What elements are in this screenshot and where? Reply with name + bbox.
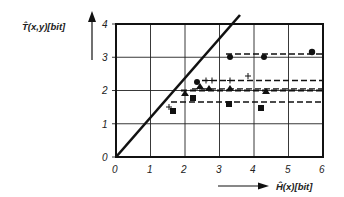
square-marker-icon xyxy=(190,95,196,101)
x-axis-arrow-icon xyxy=(218,183,269,190)
circle-marker-icon xyxy=(227,54,233,60)
x-tick-5: 5 xyxy=(285,164,291,175)
square-marker-icon xyxy=(258,105,264,111)
circle-marker-icon xyxy=(261,54,267,60)
dashed-levels xyxy=(171,54,323,102)
y-axis-arrow-icon xyxy=(88,11,96,60)
plus-marker-icon xyxy=(245,73,251,79)
diagonal-reference-line xyxy=(116,15,240,157)
y-tick-labels: 4 3 2 1 0 xyxy=(101,19,108,163)
x-axis-title: Ĥ(x)[bit] xyxy=(276,181,313,192)
circle-marker-icon xyxy=(309,49,315,55)
square-marker-icon xyxy=(226,101,232,107)
series-squares xyxy=(170,95,264,114)
y-tick-1: 1 xyxy=(102,119,108,130)
x-tick-0: 0 xyxy=(112,164,118,175)
x-tick-4: 4 xyxy=(250,164,256,175)
y-axis-title: T̂(x,y)[bit] xyxy=(22,21,66,32)
plus-marker-icon xyxy=(203,78,209,84)
triangle-marker-icon xyxy=(226,85,234,91)
plus-marker-icon xyxy=(209,78,215,84)
y-tick-0: 0 xyxy=(102,152,108,163)
x-tick-1: 1 xyxy=(147,164,153,175)
circle-marker-icon xyxy=(194,79,200,85)
x-tick-2: 2 xyxy=(180,164,187,175)
x-tick-labels: 0 1 2 3 4 5 6 xyxy=(112,164,325,175)
plus-marker-icon xyxy=(227,78,233,84)
x-tick-6: 6 xyxy=(319,164,325,175)
series-plus xyxy=(166,73,251,110)
chart: T̂(x,y)[bit] 4 3 2 1 0 xyxy=(0,0,344,197)
series-triangles xyxy=(181,83,270,96)
y-tick-4: 4 xyxy=(102,19,108,30)
triangle-marker-icon xyxy=(205,85,213,91)
x-tick-3: 3 xyxy=(216,164,222,175)
square-marker-icon xyxy=(170,108,176,114)
y-tick-3: 3 xyxy=(102,52,108,63)
y-tick-2: 2 xyxy=(101,85,108,96)
